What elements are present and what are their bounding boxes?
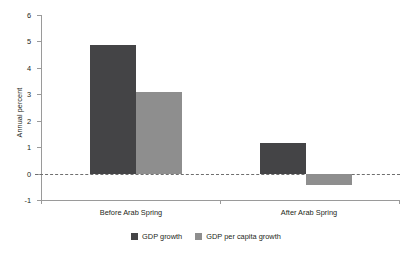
y-tick-label-5: 5	[27, 37, 31, 46]
y-tick-label-6: 6	[27, 11, 31, 20]
y-tick-1: 1	[37, 147, 41, 148]
y-tick-label-4: 4	[27, 63, 31, 72]
bar-before-gdp-per-capita-growth	[136, 92, 182, 173]
bar-before-gdp-growth	[90, 45, 136, 173]
x-axis-tick-right	[399, 200, 400, 204]
y-tick-6: 6	[37, 15, 41, 16]
y-tick-4: 4	[37, 68, 41, 69]
x-axis-tick-left	[41, 200, 42, 204]
legend-item-gdp-growth: GDP growth	[131, 232, 182, 241]
y-tick-3: 3	[37, 94, 41, 95]
bar-after-gdp-growth	[260, 143, 306, 174]
y-tick-label-2: 2	[27, 116, 31, 125]
category-label-after: After Arab Spring	[281, 208, 337, 217]
y-tick-label-1: 1	[27, 143, 31, 152]
y-axis-title: Annual percent	[15, 58, 24, 168]
y-tick-label-3: 3	[27, 90, 31, 99]
legend-swatch-icon-gdp-growth	[131, 233, 138, 240]
bar-after-gdp-per-capita-growth	[306, 174, 352, 186]
plot-area: 6 5 4 3 2 1 0 -1	[41, 15, 400, 200]
legend-label-gdp-per-capita-growth: GDP per capita growth	[206, 232, 281, 241]
x-axis-tick-middle	[220, 200, 221, 204]
y-tick-2: 2	[37, 121, 41, 122]
y-tick-5: 5	[37, 41, 41, 42]
category-label-before: Before Arab Spring	[100, 208, 162, 217]
bar-chart: Annual percent 6 5 4 3 2 1 0 -1	[0, 0, 412, 256]
legend-label-gdp-growth: GDP growth	[142, 232, 182, 241]
legend-item-gdp-per-capita-growth: GDP per capita growth	[195, 232, 281, 241]
chart-legend: GDP growth GDP per capita growth	[0, 232, 412, 241]
legend-swatch-icon-gdp-per-capita-growth	[195, 233, 202, 240]
y-tick-label-0: 0	[27, 169, 31, 178]
y-axis-line	[41, 15, 42, 200]
y-tick-label-neg1: -1	[24, 196, 31, 205]
